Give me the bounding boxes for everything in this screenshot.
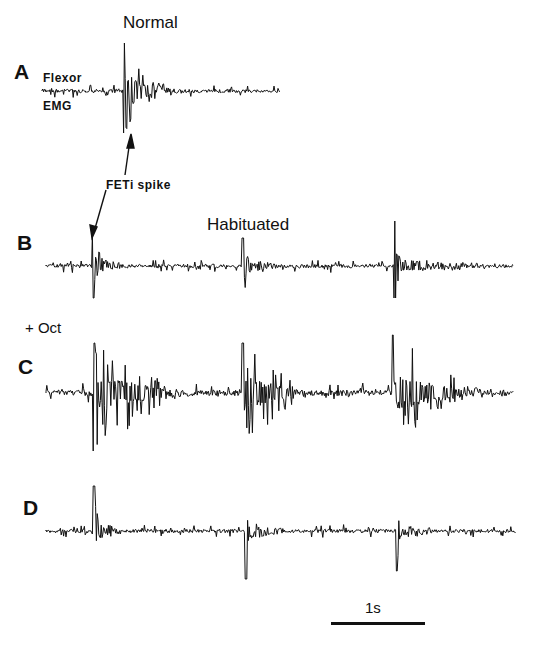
emg-trace-c [46,335,513,451]
emg-label: EMG [43,100,72,112]
panel-b-letter: B [17,232,32,253]
emg-trace-a [42,43,280,133]
scale-bar [331,622,425,625]
panel-c-letter: C [18,356,33,377]
panel-a-letter: A [14,61,29,82]
scale-bar-label: 1s [365,600,381,615]
flexor-label: Flexor [43,72,82,84]
emg-trace-d [46,486,516,579]
panel-c-condition: + Oct [25,320,61,335]
feti-spike-annotation: FETi spike [106,179,171,191]
emg-figure [0,0,533,647]
panel-d-letter: D [23,497,38,518]
panel-b-title: Habituated [207,216,289,233]
emg-traces [42,43,516,579]
panel-a-title: Normal [123,14,178,31]
